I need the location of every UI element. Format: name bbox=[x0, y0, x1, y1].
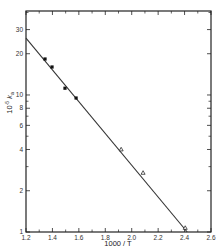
y-tick-label: 1 bbox=[19, 228, 23, 235]
data-point-filled bbox=[74, 96, 77, 99]
y-tick-label: 30 bbox=[16, 26, 24, 33]
x-tick-label: 1.6 bbox=[74, 234, 83, 241]
x-tick-label: 2.6 bbox=[206, 234, 215, 241]
y-title-prefix: 10 bbox=[5, 105, 14, 113]
x-tick-label: 2.4 bbox=[180, 234, 189, 241]
data-point-filled bbox=[50, 65, 53, 68]
y-tick-label: 20 bbox=[16, 50, 24, 57]
x-axis-title: 1000 / T bbox=[104, 239, 132, 248]
data-point-open bbox=[183, 226, 187, 230]
y-title-subscript: a bbox=[9, 92, 15, 95]
arrhenius-plot: 1.21.41.61.82.02.22.42.6 12468102030 100… bbox=[0, 0, 222, 251]
plot-border bbox=[26, 11, 211, 232]
regression-line bbox=[26, 38, 187, 232]
x-axis-ticks: 1.21.41.61.82.02.22.42.6 bbox=[21, 11, 215, 241]
data-point-open bbox=[141, 171, 145, 175]
y-axis-ticks: 12468102030 bbox=[16, 12, 211, 235]
data-points bbox=[43, 57, 187, 229]
data-point-filled bbox=[43, 57, 46, 60]
y-tick-label: 8 bbox=[19, 104, 23, 111]
fit-line bbox=[26, 38, 187, 232]
data-point-filled bbox=[63, 87, 66, 90]
plot-frame bbox=[26, 11, 211, 232]
y-tick-label: 6 bbox=[19, 122, 23, 129]
x-tick-label: 1.4 bbox=[48, 234, 57, 241]
svg-text:10-5 ka: 10-5 ka bbox=[4, 92, 15, 114]
y-tick-label: 2 bbox=[19, 187, 23, 194]
y-tick-label: 10 bbox=[16, 91, 24, 98]
y-tick-label: 4 bbox=[19, 146, 23, 153]
x-tick-label: 2.2 bbox=[154, 234, 163, 241]
data-point-open bbox=[119, 147, 123, 151]
y-axis-title: 10-5 ka bbox=[4, 92, 15, 114]
